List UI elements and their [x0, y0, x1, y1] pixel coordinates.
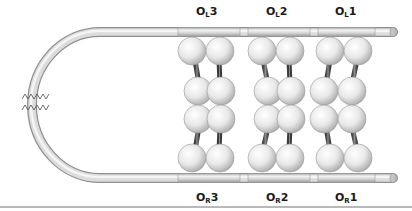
repressor-OL3-OR3 [178, 37, 235, 172]
label-OL2: OL2 [266, 5, 287, 19]
bottom-divider [0, 206, 412, 208]
operator-segments-bottom [178, 174, 375, 183]
label-OR3: OR3 [196, 191, 218, 205]
dna-loop-diagram [0, 0, 412, 211]
repressor-OL2-OR2 [248, 37, 305, 172]
label-OL1: OL1 [335, 5, 356, 19]
label-OL3: OL3 [196, 5, 217, 19]
repressor-OL1-OR1 [310, 37, 372, 172]
label-OR2: OR2 [266, 191, 288, 205]
operator-segments-top [178, 28, 375, 37]
repressor-spheres [178, 37, 372, 172]
label-OR1: OR1 [335, 191, 357, 205]
